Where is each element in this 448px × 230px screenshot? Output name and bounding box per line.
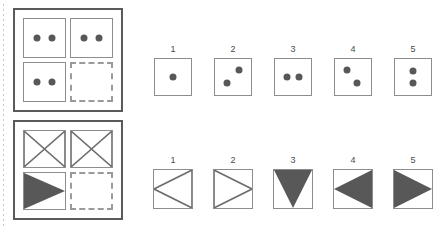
bowtie-outline-icon xyxy=(24,131,65,167)
option-box[interactable] xyxy=(213,169,253,209)
dot xyxy=(48,35,55,42)
option-3[interactable]: 3 xyxy=(263,44,323,96)
option-2[interactable]: 2 xyxy=(203,44,263,96)
dot xyxy=(48,79,55,86)
dot xyxy=(34,35,41,42)
option-1[interactable]: 1 xyxy=(143,44,203,96)
dot xyxy=(81,35,88,42)
option-number: 3 xyxy=(290,44,295,55)
matrix-grid xyxy=(15,10,121,110)
option-5[interactable]: 5 xyxy=(383,155,443,209)
page-margin-rule xyxy=(3,4,4,226)
dot xyxy=(170,74,177,81)
option-box[interactable] xyxy=(153,169,193,209)
dot xyxy=(283,74,290,81)
dot xyxy=(410,67,417,74)
triangle-left-filled-icon xyxy=(334,170,372,208)
triangle-right-outline-icon xyxy=(214,170,252,208)
matrix-cell-bottom-left xyxy=(23,62,66,102)
dot xyxy=(296,74,303,81)
option-box[interactable] xyxy=(334,58,372,96)
dot xyxy=(354,79,361,86)
dot xyxy=(34,79,41,86)
option-box[interactable] xyxy=(274,58,312,96)
matrix-cell-top-left xyxy=(23,130,66,168)
option-number: 1 xyxy=(170,44,175,55)
option-4[interactable]: 4 xyxy=(323,155,383,209)
matrix-cell-top-right xyxy=(70,130,113,168)
triangle-left-outline-icon xyxy=(154,170,192,208)
test-page: 1 2 3 4 5 xyxy=(0,0,448,230)
option-box[interactable] xyxy=(394,58,432,96)
puzzle-2-options: 1 2 3 4 xyxy=(143,155,443,209)
matrix-cell-missing xyxy=(70,172,113,210)
dot xyxy=(223,80,230,87)
matrix-cell-missing xyxy=(70,62,113,102)
matrix-cell-top-right xyxy=(70,18,113,58)
matrix-grid xyxy=(15,122,121,218)
triangle-right-filled-icon xyxy=(24,173,65,209)
option-number: 1 xyxy=(170,155,175,166)
puzzle-1-options: 1 2 3 4 5 xyxy=(143,44,443,96)
option-box[interactable] xyxy=(393,169,433,209)
option-number: 4 xyxy=(350,44,355,55)
option-2[interactable]: 2 xyxy=(203,155,263,209)
option-box[interactable] xyxy=(214,58,252,96)
option-box[interactable] xyxy=(333,169,373,209)
triangle-down-filled-icon xyxy=(274,170,312,208)
option-4[interactable]: 4 xyxy=(323,44,383,96)
option-number: 5 xyxy=(410,44,415,55)
bowtie-outline-icon xyxy=(71,131,112,167)
option-number: 4 xyxy=(350,155,355,166)
option-box[interactable] xyxy=(154,58,192,96)
triangle-right-filled-icon xyxy=(394,170,432,208)
puzzle-1-matrix xyxy=(13,8,123,112)
dot xyxy=(410,79,417,86)
matrix-cell-bottom-left xyxy=(23,172,66,210)
option-1[interactable]: 1 xyxy=(143,155,203,209)
option-box[interactable] xyxy=(273,169,313,209)
matrix-cell-top-left xyxy=(23,18,66,58)
dot xyxy=(95,35,102,42)
option-number: 3 xyxy=(290,155,295,166)
puzzle-2-matrix xyxy=(13,120,123,220)
option-3[interactable]: 3 xyxy=(263,155,323,209)
option-number: 5 xyxy=(410,155,415,166)
dot xyxy=(236,66,243,73)
option-5[interactable]: 5 xyxy=(383,44,443,96)
option-number: 2 xyxy=(230,44,235,55)
dot xyxy=(343,66,350,73)
option-number: 2 xyxy=(230,155,235,166)
